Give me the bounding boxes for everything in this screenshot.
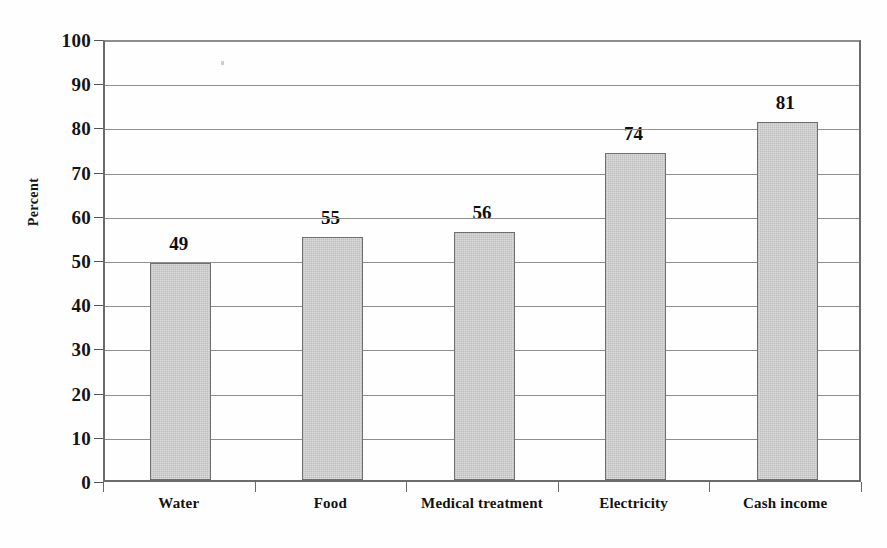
gridline — [105, 174, 859, 175]
x-axis-tick-mark — [255, 482, 256, 492]
y-axis-tick-mark — [94, 173, 103, 174]
x-axis-tick-mark — [406, 482, 407, 492]
gridline — [105, 218, 859, 219]
bar — [757, 122, 818, 480]
y-axis-tick-label: 0 — [35, 473, 91, 492]
gridline — [105, 129, 859, 130]
y-axis-tick-mark — [94, 305, 103, 306]
y-axis-tick-mark — [94, 349, 103, 350]
gridline — [105, 85, 859, 86]
y-axis-tick-label: 30 — [35, 340, 91, 359]
y-axis-tick-mark — [94, 261, 103, 262]
y-axis-tick-label: 20 — [35, 385, 91, 404]
y-axis-tick-mark — [94, 128, 103, 129]
y-axis-tick-label: 50 — [35, 252, 91, 271]
y-axis-title: Percent — [26, 132, 42, 272]
x-axis-tick-mark — [103, 482, 104, 492]
y-axis-tick-label: 80 — [35, 119, 91, 138]
y-axis-tick-label: 10 — [35, 429, 91, 448]
bar — [302, 237, 363, 480]
y-axis-tick-label: 40 — [35, 296, 91, 315]
y-axis-tick-mark — [94, 217, 103, 218]
bar — [605, 153, 666, 480]
y-axis-tick-label: 60 — [35, 208, 91, 227]
y-axis-tick-mark — [94, 40, 103, 41]
y-axis-tick-label: 70 — [35, 164, 91, 183]
y-axis-tick-mark — [94, 438, 103, 439]
y-axis-tick-mark — [94, 482, 103, 483]
x-axis-tick-mark — [558, 482, 559, 492]
gridline — [105, 41, 859, 42]
bar-chart: Percent 0102030405060708090100 WaterFood… — [0, 0, 887, 548]
y-axis-tick-mark — [94, 84, 103, 85]
x-axis-tick-mark — [861, 482, 862, 492]
y-axis-tick-label: 90 — [35, 75, 91, 94]
bar — [454, 232, 515, 480]
x-axis-category-label: Cash income — [680, 495, 887, 512]
bar — [150, 263, 211, 480]
x-axis-tick-mark — [709, 482, 710, 492]
y-axis-tick-mark — [94, 394, 103, 395]
plot-area — [103, 40, 861, 482]
y-axis-tick-label: 100 — [35, 31, 91, 50]
